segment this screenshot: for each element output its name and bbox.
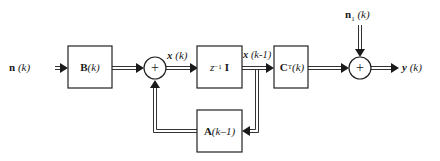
block-delay-label: z−1I [197,46,242,88]
B-arg: (k) [88,61,100,73]
edge-delay-to-C [242,67,267,70]
block-B-label: B (k) [68,46,112,88]
edge-B-to-sum1 [112,67,137,70]
input-signal-label: n (k) [9,62,30,73]
block-C-label: CT (k) [274,46,310,88]
delayed-state-label: x (k-1) [243,50,271,61]
summer-2-plus: + [349,57,371,79]
A-arg: (k–1) [212,125,235,137]
edge-sum2-to-output [371,67,392,70]
A-symbol: A [204,125,212,137]
plus-sign: + [356,60,364,76]
state-signal-label: x (k) [167,50,187,61]
block-A-label: A (k–1) [197,110,242,152]
edge-delay-to-A [249,70,259,133]
edge-noise-to-sum2 [359,25,362,51]
edge-sum1-to-delay [166,67,191,70]
output-signal-label: y (k) [402,62,422,73]
identity-symbol: I [225,61,229,73]
block-diagram: n (k) B (k) + x (k) z−1I x (k-1) CT (k) … [0,0,440,161]
xk1-arg: (k-1) [248,49,271,60]
summer-1-plus: + [144,57,166,79]
z-exponent: −1 [214,63,221,71]
C-arg: (k) [292,61,304,73]
n-arg: (k) [15,61,30,73]
noise-signal-label: n1 (k) [345,9,370,23]
edge-C-to-sum2 [308,67,342,70]
C-symbol: C [280,61,288,73]
plus-sign: + [151,60,159,76]
x-arg: (k) [173,49,188,61]
n1-arg: (k) [355,8,370,20]
y-arg: (k) [407,61,422,73]
edge-A-to-sum1 [154,86,198,133]
B-symbol: B [80,61,87,73]
